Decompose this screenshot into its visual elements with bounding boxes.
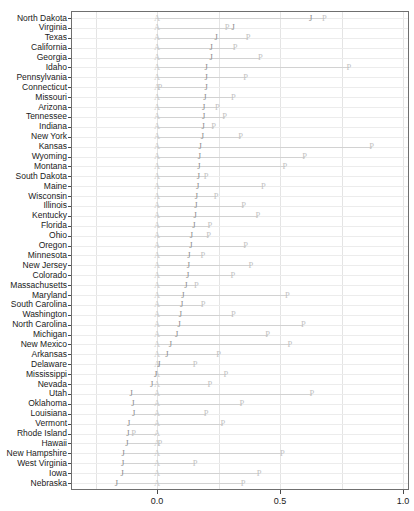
data-point-p: P bbox=[237, 132, 245, 141]
data-point-p: P bbox=[278, 449, 286, 458]
horizontal-gridline bbox=[72, 226, 408, 227]
x-axis-tick bbox=[280, 490, 281, 494]
data-point-j: J bbox=[192, 201, 200, 210]
y-axis-category-label: Pennsylvania bbox=[16, 73, 67, 82]
y-axis-category-label: Wisconsin bbox=[28, 192, 67, 201]
data-point-a: A bbox=[153, 172, 161, 181]
y-axis-tick bbox=[68, 48, 71, 49]
data-point-p: P bbox=[247, 261, 255, 270]
y-axis-tick bbox=[68, 58, 71, 59]
data-point-j: J bbox=[195, 152, 203, 161]
data-point-j: J bbox=[200, 103, 208, 112]
y-axis-category-label: Mississippi bbox=[26, 370, 67, 379]
data-point-p: P bbox=[259, 182, 267, 191]
horizontal-gridline bbox=[72, 315, 408, 316]
vertical-gridline bbox=[219, 12, 220, 489]
x-axis-tick-label: 1.0 bbox=[383, 497, 414, 506]
data-point-j: J bbox=[199, 132, 207, 141]
data-point-j: J bbox=[167, 340, 175, 349]
row-connector-line bbox=[157, 255, 203, 256]
data-point-p: P bbox=[213, 103, 221, 112]
data-point-a: A bbox=[153, 33, 161, 42]
data-point-a: A bbox=[153, 449, 161, 458]
y-axis-tick bbox=[68, 226, 71, 227]
data-point-j: J bbox=[196, 142, 204, 151]
data-point-j: J bbox=[148, 380, 156, 389]
y-axis-category-label: South Carolina bbox=[11, 300, 67, 309]
data-point-j: J bbox=[202, 83, 210, 92]
y-axis-tick bbox=[68, 127, 71, 128]
y-axis-category-label: Arkansas bbox=[32, 350, 67, 359]
data-point-p: P bbox=[231, 43, 239, 52]
row-connector-line bbox=[157, 196, 216, 197]
data-point-a: A bbox=[153, 310, 161, 319]
data-point-a: A bbox=[153, 241, 161, 250]
y-axis-category-label: Florida bbox=[41, 221, 67, 230]
data-point-j: J bbox=[178, 300, 186, 309]
y-axis-category-label: Texas bbox=[45, 33, 67, 42]
y-axis-tick bbox=[68, 246, 71, 247]
data-point-p: P bbox=[156, 83, 164, 92]
data-point-j: J bbox=[184, 271, 192, 280]
data-point-a: A bbox=[153, 271, 161, 280]
data-point-a: A bbox=[153, 459, 161, 468]
y-axis-tick bbox=[68, 364, 71, 365]
y-axis-tick bbox=[68, 38, 71, 39]
data-point-p: P bbox=[242, 73, 250, 82]
data-point-a: A bbox=[153, 43, 161, 52]
y-axis-tick bbox=[68, 354, 71, 355]
data-point-p: P bbox=[206, 221, 214, 230]
row-connector-line bbox=[133, 404, 242, 405]
data-point-p: P bbox=[301, 152, 309, 161]
data-point-j: J bbox=[187, 241, 195, 250]
horizontal-gridline bbox=[72, 176, 408, 177]
y-axis-tick bbox=[68, 255, 71, 256]
data-point-j: J bbox=[195, 162, 203, 171]
y-axis-tick bbox=[68, 77, 71, 78]
data-point-a: A bbox=[153, 182, 161, 191]
y-axis-category-label: Maryland bbox=[32, 291, 67, 300]
y-axis-tick bbox=[68, 443, 71, 444]
y-axis-category-label: Illinois bbox=[43, 201, 67, 210]
horizontal-gridline bbox=[72, 354, 408, 355]
data-point-p: P bbox=[240, 201, 248, 210]
row-connector-line bbox=[157, 97, 233, 98]
row-connector-line bbox=[157, 186, 263, 187]
horizontal-gridline bbox=[72, 414, 408, 415]
data-point-p: P bbox=[223, 23, 231, 32]
row-connector-line bbox=[157, 67, 349, 68]
data-point-a: A bbox=[153, 162, 161, 171]
row-connector-line bbox=[157, 166, 285, 167]
y-axis-tick bbox=[68, 147, 71, 148]
y-axis-tick bbox=[68, 176, 71, 177]
y-axis-tick bbox=[68, 295, 71, 296]
data-point-j: J bbox=[199, 122, 207, 131]
data-point-j: J bbox=[207, 53, 215, 62]
dot-plot-chart: AJPNorth DakotaAJPVirginiaAJPTexasAJPCal… bbox=[0, 0, 414, 511]
y-axis-tick bbox=[68, 166, 71, 167]
data-point-p: P bbox=[320, 14, 328, 23]
data-point-p: P bbox=[199, 300, 207, 309]
row-connector-line bbox=[116, 483, 243, 484]
y-axis-category-label: Indiana bbox=[39, 122, 67, 131]
row-connector-line bbox=[157, 226, 210, 227]
y-axis-tick bbox=[68, 285, 71, 286]
row-connector-line bbox=[157, 147, 372, 148]
horizontal-gridline bbox=[72, 364, 408, 365]
data-point-j: J bbox=[152, 370, 160, 379]
y-axis-category-label: Minnesota bbox=[28, 251, 67, 260]
horizontal-gridline bbox=[72, 28, 408, 29]
y-axis-category-label: Kansas bbox=[39, 142, 67, 151]
row-connector-line bbox=[157, 246, 246, 247]
data-point-p: P bbox=[264, 330, 272, 339]
horizontal-gridline bbox=[72, 97, 408, 98]
data-point-p: P bbox=[254, 211, 262, 220]
y-axis-tick bbox=[68, 117, 71, 118]
data-point-p: P bbox=[202, 172, 210, 181]
y-axis-category-label: Nebraska bbox=[31, 479, 67, 488]
data-point-j: J bbox=[212, 33, 220, 42]
vertical-gridline bbox=[96, 12, 97, 489]
y-axis-category-label: North Carolina bbox=[12, 320, 67, 329]
data-point-j: J bbox=[176, 310, 184, 319]
data-point-p: P bbox=[156, 439, 164, 448]
